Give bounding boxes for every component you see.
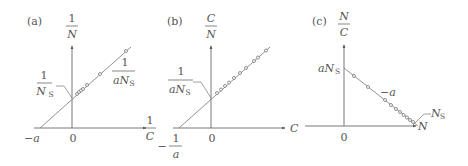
panel-a-y-axis-label: 1 N [66,12,78,41]
panel-c-x-axis-label: N [417,120,428,133]
svg-text:C: C [146,130,155,143]
svg-text:1: 1 [122,56,129,69]
svg-text:S: S [185,88,190,97]
isotherm-linearization-figure: (a) 1 N 1 C 0 −a 1 N S 1 [0,0,468,166]
svg-text:1: 1 [41,69,48,82]
svg-text:C: C [340,26,349,39]
panel-a-data-markers [76,50,128,96]
panel-b-y-axis-label: C N [205,12,217,41]
svg-text:1: 1 [173,132,180,145]
svg-text:aN: aN [318,62,335,75]
panel-a-origin-label: 0 [70,132,77,145]
svg-text:1: 1 [178,65,185,78]
panel-c-origin-label: 0 [341,131,348,144]
panel-a-fit-line [40,47,131,128]
svg-text:N: N [205,28,216,41]
svg-text:S: S [129,79,134,88]
svg-text:S: S [48,90,53,99]
panel-a-y-intercept-label: 1 N S [35,69,72,99]
svg-text:aN: aN [169,83,186,96]
svg-text:N: N [66,28,77,41]
svg-text:−: − [157,140,166,153]
panel-a-x-axis-label: 1 C [145,114,156,143]
panel-a-label: (a) [27,15,42,28]
svg-text:1: 1 [147,114,154,127]
svg-text:S: S [440,112,445,121]
panel-b-y-intercept-label: 1 aN S [168,65,211,98]
panel-c-slope-label: −a [380,86,396,99]
panel-c-label: (c) [312,15,327,28]
panel-a: (a) 1 N 1 C 0 −a 1 N S 1 [24,12,156,145]
svg-text:S: S [335,67,340,76]
panel-b-origin-label: 0 [209,132,216,145]
svg-text:N: N [338,10,349,23]
svg-text:1: 1 [69,12,76,25]
panel-a-x-intercept-label: −a [24,132,40,145]
svg-text:C: C [207,12,216,25]
svg-text:N: N [35,85,46,98]
panel-c: (c) N C 0 N aN S −a N S [305,10,445,144]
panel-b-label: (b) [167,15,183,28]
panel-b-x-axis-label: C [290,122,299,135]
svg-text:a: a [173,148,180,161]
svg-text:aN: aN [113,74,130,87]
panel-b-x-intercept-label: − 1 a [157,132,182,161]
panel-c-y-intercept-label: aN S [318,62,340,76]
panel-b: (b) C N C 0 − 1 a 1 aN S [157,12,299,161]
panel-c-y-axis-label: N C [338,10,350,39]
